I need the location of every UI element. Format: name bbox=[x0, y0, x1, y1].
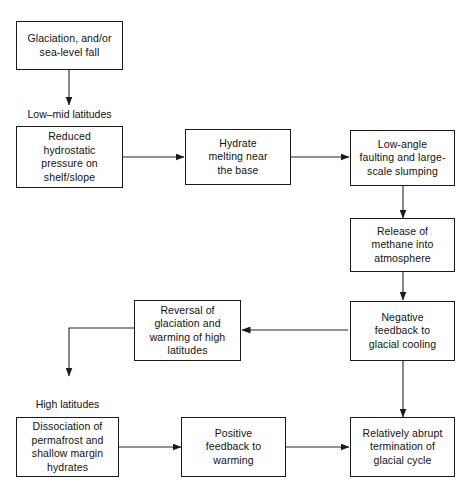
node-glaciation-label: Glaciation, and/or sea-level fall bbox=[24, 32, 114, 59]
node-termination-glacial-cycle-label: Relatively abrupt termination of glacial… bbox=[360, 427, 446, 468]
node-hydrate-melting[interactable]: Hydrate melting near the base bbox=[185, 129, 291, 185]
node-dissociation-permafrost-label: Dissociation of permafrost and shallow m… bbox=[28, 420, 106, 474]
region-label-high-latitudes: High latitudes bbox=[16, 398, 119, 411]
flowchart-diagram: Glaciation, and/or sea-level fall Low–mi… bbox=[0, 0, 470, 489]
node-positive-feedback[interactable]: Positive feedback to warming bbox=[181, 417, 286, 477]
region-label-low-mid-latitudes: Low–mid latitudes bbox=[16, 108, 123, 121]
node-methane-release[interactable]: Release of methane into atmosphere bbox=[350, 218, 455, 272]
node-hydrate-melting-label: Hydrate melting near the base bbox=[206, 137, 271, 178]
node-termination-glacial-cycle[interactable]: Relatively abrupt termination of glacial… bbox=[350, 417, 455, 477]
node-reversal-of-glaciation-label: Reversal of glaciation and warming of hi… bbox=[147, 304, 229, 358]
node-negative-feedback-label: Negative feedback to glacial cooling bbox=[366, 311, 439, 352]
node-positive-feedback-label: Positive feedback to warming bbox=[203, 427, 264, 468]
node-dissociation-permafrost[interactable]: Dissociation of permafrost and shallow m… bbox=[16, 417, 119, 477]
edge-reversal-to-high-latitudes bbox=[69, 328, 134, 376]
node-reversal-of-glaciation[interactable]: Reversal of glaciation and warming of hi… bbox=[134, 300, 241, 361]
node-negative-feedback[interactable]: Negative feedback to glacial cooling bbox=[350, 301, 455, 361]
node-low-angle-faulting[interactable]: Low-angle faulting and large- scale slum… bbox=[350, 130, 455, 186]
node-methane-release-label: Release of methane into atmosphere bbox=[369, 225, 437, 266]
node-reduced-hydrostatic-pressure-label: Reduced hydrostatic pressure on shelf/sl… bbox=[38, 130, 101, 184]
node-low-angle-faulting-label: Low-angle faulting and large- scale slum… bbox=[357, 138, 449, 179]
node-reduced-hydrostatic-pressure[interactable]: Reduced hydrostatic pressure on shelf/sl… bbox=[16, 126, 123, 188]
node-glaciation[interactable]: Glaciation, and/or sea-level fall bbox=[16, 21, 123, 70]
